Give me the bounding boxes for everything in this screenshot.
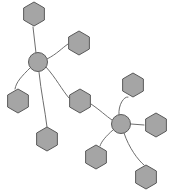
nodes-layer (8, 2, 167, 189)
graph-node-hex-top[interactable] (24, 2, 45, 26)
network-graph-svg (0, 0, 169, 195)
graph-node-hex-far-right[interactable] (146, 113, 167, 137)
graph-edge (124, 133, 144, 165)
graph-node-hub-right[interactable] (112, 115, 131, 134)
graph-node-hex-left[interactable] (8, 89, 29, 113)
graph-node-hex-bottom-right[interactable] (136, 165, 157, 189)
graph-node-hex-right-top[interactable] (123, 73, 144, 97)
graph-edge (91, 104, 112, 120)
graph-node-hex-bottom-left[interactable] (37, 127, 58, 151)
network-graph-canvas (0, 0, 169, 195)
graph-node-hub-left[interactable] (29, 53, 48, 72)
graph-edge (33, 27, 36, 53)
graph-node-hex-bridge[interactable] (70, 89, 91, 113)
graph-edge (47, 44, 68, 59)
graph-edge (119, 97, 128, 115)
graph-edge (46, 67, 69, 98)
graph-edge (39, 72, 47, 127)
graph-edge (100, 130, 113, 146)
graph-edge (15, 68, 30, 89)
graph-edge (131, 124, 144, 125)
graph-node-hex-right-lower-left[interactable] (86, 145, 107, 169)
graph-node-hex-upper-right[interactable] (69, 31, 90, 55)
